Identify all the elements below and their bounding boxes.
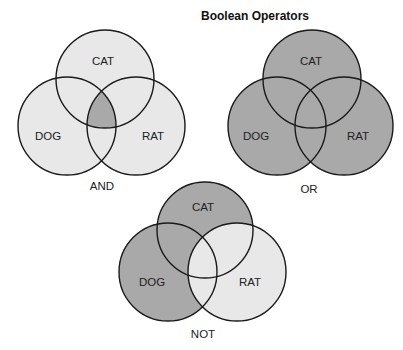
not-cat-label: CAT bbox=[192, 201, 214, 213]
not-diagram: CAT DOG RAT NOT bbox=[119, 182, 286, 340]
and-dog-label: DOG bbox=[35, 130, 61, 142]
and-rat-label: RAT bbox=[142, 130, 164, 142]
or-cat-label: CAT bbox=[300, 55, 322, 67]
or-rat-label: RAT bbox=[347, 130, 369, 142]
not-rat-label: RAT bbox=[239, 276, 261, 288]
or-dog-label: DOG bbox=[243, 130, 269, 142]
and-caption: AND bbox=[90, 180, 114, 192]
or-diagram: CAT DOG RAT OR bbox=[228, 30, 393, 195]
not-dog-label: DOG bbox=[139, 276, 165, 288]
and-diagram: CAT DOG RAT AND bbox=[18, 30, 185, 192]
not-caption: NOT bbox=[191, 328, 215, 340]
or-caption: OR bbox=[300, 183, 317, 195]
venn-figure: CAT DOG RAT AND CAT DOG RAT OR CAT DOG R… bbox=[0, 0, 403, 350]
and-cat-label: CAT bbox=[92, 55, 114, 67]
